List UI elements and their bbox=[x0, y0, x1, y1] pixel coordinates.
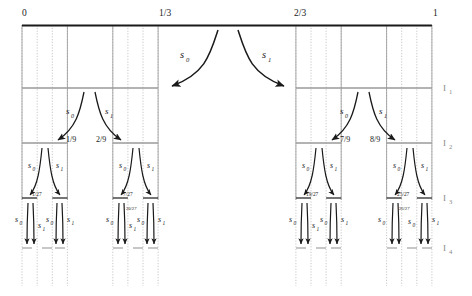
arrow-s1-g4-level3 bbox=[413, 148, 425, 195]
axis-tick-1: 1 bbox=[433, 8, 438, 18]
arrow-s1-right-level2 bbox=[369, 92, 395, 140]
svg-text:0: 0 bbox=[71, 113, 74, 119]
svg-text:s: s bbox=[341, 215, 344, 224]
level-label-I2: I 2 bbox=[443, 138, 452, 150]
label-s1-g4-level3: s 1 bbox=[421, 161, 429, 172]
fraction-7-27: 7/27 bbox=[123, 191, 133, 197]
svg-text:s: s bbox=[67, 215, 70, 224]
svg-text:1: 1 bbox=[152, 166, 155, 172]
svg-text:1: 1 bbox=[163, 220, 166, 226]
svg-text:s: s bbox=[129, 221, 132, 230]
label-s0-g3-level3: s 0 bbox=[302, 161, 310, 172]
label-s0-level1: s 0 bbox=[180, 49, 190, 63]
svg-text:0: 0 bbox=[398, 166, 401, 172]
svg-text:0: 0 bbox=[413, 222, 416, 228]
svg-text:s: s bbox=[28, 161, 31, 170]
fraction-20-27: 20/27 bbox=[126, 206, 137, 211]
fraction-26-27: 26/27 bbox=[399, 206, 410, 211]
svg-text:s: s bbox=[340, 106, 344, 116]
fraction-7-9: 7/9 bbox=[340, 135, 350, 144]
svg-text:1: 1 bbox=[335, 166, 338, 172]
cantor-ifs-diagram: 0 1/3 2/3 1 bbox=[0, 0, 472, 296]
svg-text:I: I bbox=[443, 243, 446, 253]
svg-text:s: s bbox=[432, 215, 435, 224]
svg-text:s: s bbox=[320, 215, 323, 224]
svg-text:s: s bbox=[119, 161, 122, 170]
svg-text:1: 1 bbox=[449, 88, 452, 95]
svg-text:1: 1 bbox=[110, 113, 113, 119]
svg-text:0: 0 bbox=[186, 56, 190, 63]
svg-text:s: s bbox=[180, 49, 184, 60]
svg-text:0: 0 bbox=[307, 166, 310, 172]
svg-text:s: s bbox=[105, 106, 109, 116]
svg-text:0: 0 bbox=[294, 220, 297, 226]
svg-text:4: 4 bbox=[449, 248, 453, 255]
svg-text:s: s bbox=[56, 161, 59, 170]
arrows-level4 bbox=[27, 203, 428, 244]
fraction-25-27: 25/27 bbox=[397, 191, 410, 197]
svg-text:1: 1 bbox=[346, 220, 349, 226]
svg-text:0: 0 bbox=[111, 220, 114, 226]
label-s1-g3-level3: s 1 bbox=[330, 161, 338, 172]
fraction-1-27: 1/27 bbox=[32, 191, 42, 197]
label-s1-right-level2: s 1 bbox=[379, 106, 387, 119]
svg-text:s: s bbox=[289, 215, 292, 224]
svg-text:s: s bbox=[106, 215, 109, 224]
svg-text:1: 1 bbox=[72, 220, 75, 226]
arrow-s0-level1 bbox=[172, 30, 218, 86]
svg-text:s: s bbox=[378, 215, 381, 224]
svg-text:0: 0 bbox=[142, 220, 145, 226]
svg-text:I: I bbox=[443, 193, 446, 203]
svg-text:I: I bbox=[443, 138, 446, 148]
label-s0-g1-level3: s 0 bbox=[28, 161, 36, 172]
svg-text:s: s bbox=[262, 49, 266, 60]
svg-text:s: s bbox=[38, 221, 41, 230]
svg-text:2: 2 bbox=[449, 143, 452, 150]
svg-text:0: 0 bbox=[124, 166, 127, 172]
svg-text:0: 0 bbox=[51, 220, 54, 226]
axis-tick-0: 0 bbox=[22, 8, 27, 18]
svg-text:0: 0 bbox=[20, 220, 23, 226]
svg-text:1: 1 bbox=[134, 226, 137, 232]
arrow-s1-g3-level3 bbox=[322, 148, 334, 195]
svg-text:s: s bbox=[147, 161, 150, 170]
figure-canvas: 0 1/3 2/3 1 bbox=[0, 0, 472, 296]
svg-text:s: s bbox=[46, 215, 49, 224]
svg-text:s: s bbox=[408, 217, 411, 226]
svg-text:0: 0 bbox=[383, 220, 386, 226]
svg-text:0: 0 bbox=[325, 220, 328, 226]
label-s1-g2-level3: s 1 bbox=[147, 161, 155, 172]
svg-text:1: 1 bbox=[437, 220, 440, 226]
svg-text:1: 1 bbox=[426, 166, 429, 172]
svg-text:s: s bbox=[66, 106, 70, 116]
svg-text:1: 1 bbox=[268, 56, 271, 63]
svg-text:s: s bbox=[158, 215, 161, 224]
svg-text:1: 1 bbox=[43, 226, 46, 232]
svg-text:s: s bbox=[379, 106, 383, 116]
svg-text:s: s bbox=[302, 161, 305, 170]
axis-tick-2-3: 2/3 bbox=[294, 8, 306, 18]
arrow-s1-level1 bbox=[238, 30, 284, 86]
label-s1-level1: s 1 bbox=[262, 49, 271, 63]
solid-guides bbox=[22, 25, 432, 200]
labels-level4: s 0 s 1 s 0 s 1 s 0 s 1 s 0 s 1 s 0 s 1 … bbox=[15, 215, 440, 232]
fraction-19-27: 19/27 bbox=[306, 191, 319, 197]
fraction-1-9: 1/9 bbox=[66, 135, 76, 144]
svg-text:s: s bbox=[393, 161, 396, 170]
fraction-2-9: 2/9 bbox=[96, 135, 106, 144]
label-s0-g4-level3: s 0 bbox=[393, 161, 401, 172]
dotted-guides bbox=[22, 25, 432, 286]
svg-text:1: 1 bbox=[317, 226, 320, 232]
svg-text:s: s bbox=[330, 161, 333, 170]
label-s1-g1-level3: s 1 bbox=[56, 161, 64, 172]
svg-text:s: s bbox=[15, 215, 18, 224]
arrow-s1-g2-level3 bbox=[139, 148, 151, 195]
svg-text:s: s bbox=[421, 161, 424, 170]
svg-text:3: 3 bbox=[449, 198, 453, 205]
svg-text:1: 1 bbox=[61, 166, 64, 172]
level-label-I3: I 3 bbox=[443, 193, 453, 205]
arrow-s1-left-level2 bbox=[95, 92, 121, 140]
svg-text:0: 0 bbox=[345, 113, 348, 119]
svg-text:I: I bbox=[443, 83, 446, 93]
svg-text:s: s bbox=[137, 215, 140, 224]
